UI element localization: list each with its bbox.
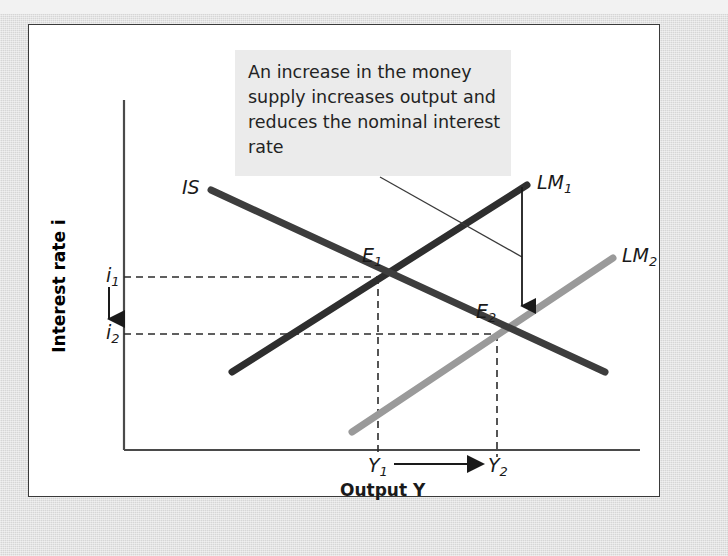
figure-root: An increase in the money supply increase… [0, 0, 728, 556]
x-tick-label-y2-sub: 2 [500, 464, 508, 479]
equilibrium-label-e2: E2 [476, 302, 496, 321]
annotation-text: An increase in the money supply increase… [248, 60, 510, 159]
y-tick-label-i1: i1 [106, 266, 120, 285]
y-axis-title-text: Interest rate i [49, 219, 69, 352]
curve-label-lm2-base: LM [622, 244, 649, 266]
curve-label-lm1-sub: 1 [564, 181, 572, 196]
y-tick-label-i2: i2 [106, 323, 120, 342]
equilibrium-label-e2-sub: 2 [488, 310, 496, 325]
x-tick-label-y2-base: Y [488, 454, 500, 476]
curve-label-is-base: IS [182, 176, 200, 198]
curve-label-lm2-sub: 2 [649, 254, 657, 269]
x-tick-label-y2: Y2 [488, 456, 508, 475]
y-tick-label-i2-sub: 2 [111, 331, 119, 346]
curve-label-is: IS [182, 178, 200, 197]
equilibrium-label-e1-sub: 1 [374, 254, 382, 269]
x-axis-title-text: Output Y [340, 480, 425, 500]
y-axis-title: Interest rate i [49, 191, 69, 381]
x-tick-label-y1-base: Y [368, 454, 380, 476]
curve-label-lm1-base: LM [537, 171, 564, 193]
x-axis-title: Output Y [340, 482, 425, 499]
x-tick-label-y1: Y1 [368, 456, 388, 475]
equilibrium-label-e2-base: E [476, 300, 488, 322]
x-tick-label-y1-sub: 1 [380, 464, 388, 479]
equilibrium-label-e1: E1 [362, 246, 382, 265]
curve-label-lm1: LM1 [537, 173, 572, 192]
y-tick-label-i1-sub: 1 [111, 274, 119, 289]
curve-label-lm2: LM2 [622, 246, 657, 265]
equilibrium-label-e1-base: E [362, 244, 374, 266]
